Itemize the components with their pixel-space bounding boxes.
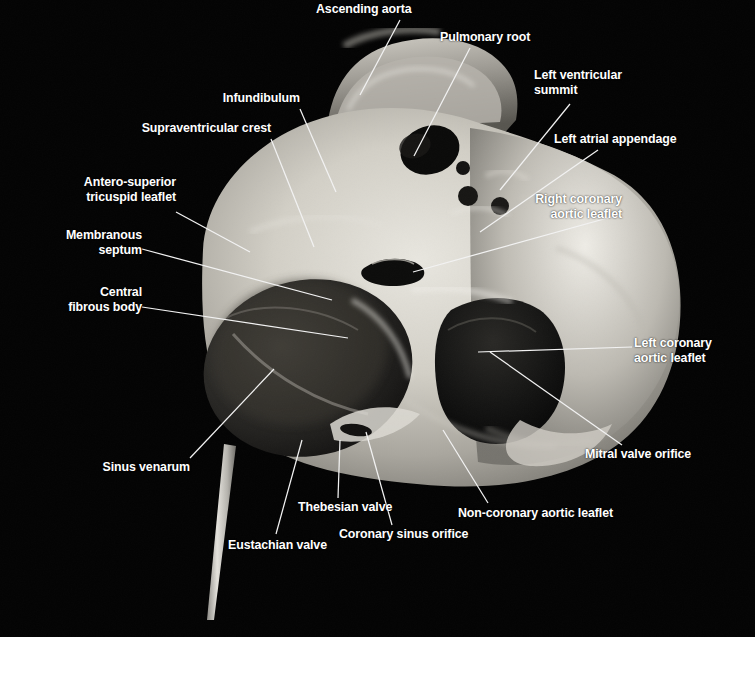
label-mitral-valve-orifice-line-1: Mitral valve orifice	[585, 447, 691, 462]
label-ascending-aorta-line-1: Ascending aorta	[316, 2, 412, 17]
label-thebesian-valve-line-1: Thebesian valve	[298, 500, 392, 515]
label-antero-superior-tricuspid-leaflet-line-1: Antero-superior	[84, 175, 176, 190]
label-central-fibrous-body-line-1: Central	[68, 285, 142, 300]
label-infundibulum-line-1: Infundibulum	[223, 91, 300, 106]
label-left-atrial-appendage-line-1: Left atrial appendage	[554, 132, 677, 147]
label-left-coronary-aortic-leaflet-line-1: Left coronary	[634, 336, 712, 351]
label-supraventricular-crest: Supraventricular crest	[142, 121, 271, 136]
label-antero-superior-tricuspid-leaflet: Antero-superiortricuspid leaflet	[84, 175, 176, 204]
anatomical-photograph: Ascending aortaPulmonary rootInfundibulu…	[0, 0, 755, 637]
label-infundibulum: Infundibulum	[223, 91, 300, 106]
label-left-atrial-appendage: Left atrial appendage	[554, 132, 677, 147]
label-left-ventricular-summit-line-1: Left ventricular	[534, 68, 622, 83]
figure-page: Ascending aortaPulmonary rootInfundibulu…	[0, 0, 755, 673]
label-supraventricular-crest-line-1: Supraventricular crest	[142, 121, 271, 136]
label-left-coronary-aortic-leaflet-line-2: aortic leaflet	[634, 351, 712, 366]
label-central-fibrous-body-line-2: fibrous body	[68, 300, 142, 315]
label-thebesian-valve: Thebesian valve	[298, 500, 392, 515]
label-coronary-sinus-orifice-line-1: Coronary sinus orifice	[339, 527, 468, 542]
figure-footer-strip	[0, 637, 755, 673]
label-mitral-valve-orifice: Mitral valve orifice	[585, 447, 691, 462]
label-right-coronary-aortic-leaflet: Right coronaryaortic leaflet	[535, 192, 622, 221]
label-coronary-sinus-orifice: Coronary sinus orifice	[339, 527, 468, 542]
label-membranous-septum-line-2: septum	[66, 243, 142, 258]
label-non-coronary-aortic-leaflet: Non-coronary aortic leaflet	[458, 506, 613, 521]
label-right-coronary-aortic-leaflet-line-2: aortic leaflet	[535, 207, 622, 222]
label-pulmonary-root-line-1: Pulmonary root	[440, 30, 530, 45]
label-sinus-venarum: Sinus venarum	[102, 460, 190, 475]
label-sinus-venarum-line-1: Sinus venarum	[102, 460, 190, 475]
label-left-coronary-aortic-leaflet: Left coronaryaortic leaflet	[634, 336, 712, 365]
label-pulmonary-root: Pulmonary root	[440, 30, 530, 45]
label-central-fibrous-body: Centralfibrous body	[68, 285, 142, 314]
label-left-ventricular-summit: Left ventricularsummit	[534, 68, 622, 97]
label-ascending-aorta: Ascending aorta	[316, 2, 412, 17]
label-membranous-septum-line-1: Membranous	[66, 228, 142, 243]
label-eustachian-valve-line-1: Eustachian valve	[228, 538, 327, 553]
label-non-coronary-aortic-leaflet-line-1: Non-coronary aortic leaflet	[458, 506, 613, 521]
label-right-coronary-aortic-leaflet-line-1: Right coronary	[535, 192, 622, 207]
label-eustachian-valve: Eustachian valve	[228, 538, 327, 553]
label-left-ventricular-summit-line-2: summit	[534, 83, 622, 98]
label-membranous-septum: Membranousseptum	[66, 228, 142, 257]
label-antero-superior-tricuspid-leaflet-line-2: tricuspid leaflet	[84, 190, 176, 205]
